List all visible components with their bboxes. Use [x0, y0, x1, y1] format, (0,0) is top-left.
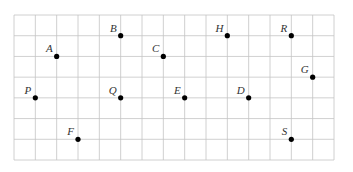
point-dot	[75, 137, 80, 142]
point-dot	[289, 33, 294, 38]
point-label: Q	[109, 84, 117, 96]
point-dot	[118, 33, 123, 38]
point-label: D	[236, 84, 245, 96]
point-dot	[246, 95, 251, 100]
point-dot	[182, 95, 187, 100]
point-dot	[310, 75, 315, 80]
point-dot	[161, 54, 166, 59]
point-label: R	[280, 22, 288, 34]
point-dot	[289, 137, 294, 142]
point-label: P	[24, 84, 32, 96]
points: ABCHRGPQEDFS	[24, 22, 316, 142]
point-dot	[33, 95, 38, 100]
point-label: E	[173, 84, 181, 96]
point-label: S	[282, 125, 288, 137]
point-label: A	[45, 42, 53, 54]
point-label: B	[110, 22, 117, 34]
point-dot	[54, 54, 59, 59]
point-dot	[225, 33, 230, 38]
point-dot	[118, 95, 123, 100]
point-label: G	[301, 63, 309, 75]
lattice-grid-diagram: ABCHRGPQEDFS	[0, 0, 353, 172]
point-label: F	[66, 125, 74, 137]
point-label: H	[214, 22, 224, 34]
point-label: C	[152, 42, 160, 54]
